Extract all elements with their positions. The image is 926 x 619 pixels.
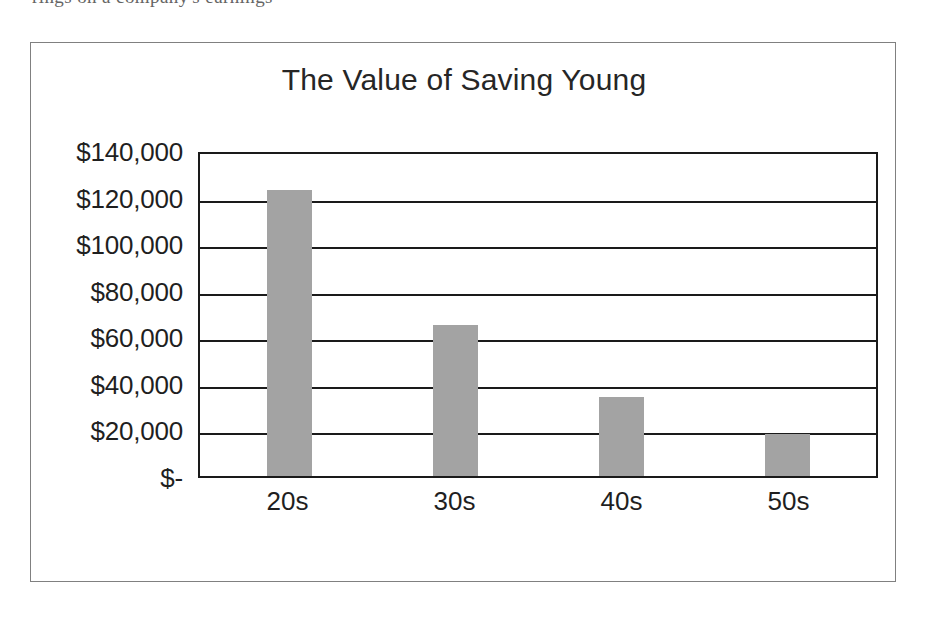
y-axis-tick-label: $60,000 [90, 323, 183, 354]
y-axis-tick-label: $80,000 [90, 276, 183, 307]
x-axis-tick-label: 50s [705, 486, 872, 517]
bar-slot [372, 154, 538, 476]
clipped-header-text: rings on a company's earnings [0, 0, 926, 8]
y-axis-tick-label: $140,000 [76, 137, 183, 168]
bar-slot [538, 154, 704, 476]
x-axis-category-labels: 20s30s40s50s [198, 486, 878, 517]
bar-40s[interactable] [599, 397, 644, 476]
plot-area [198, 152, 878, 478]
y-axis-tick-label: $100,000 [76, 230, 183, 261]
bar-50s[interactable] [765, 434, 810, 476]
chart-title: The Value of Saving Young [31, 63, 897, 97]
y-axis-tick-label: $120,000 [76, 183, 183, 214]
y-axis-tick-label: $- [160, 463, 183, 494]
bar-slot [704, 154, 870, 476]
y-axis-tick-label: $20,000 [90, 416, 183, 447]
x-axis-tick-label: 30s [371, 486, 538, 517]
bar-slot [206, 154, 372, 476]
x-axis-tick-label: 20s [204, 486, 371, 517]
x-axis-tick-label: 40s [538, 486, 705, 517]
bar-30s[interactable] [433, 325, 478, 476]
bar-20s[interactable] [267, 190, 312, 476]
y-axis-tick-label: $40,000 [90, 369, 183, 400]
chart-frame: The Value of Saving Young $140,000$120,0… [30, 42, 896, 582]
bar-series [200, 154, 876, 476]
y-axis-tick-labels: $140,000$120,000$100,000$80,000$60,000$4… [31, 152, 191, 478]
